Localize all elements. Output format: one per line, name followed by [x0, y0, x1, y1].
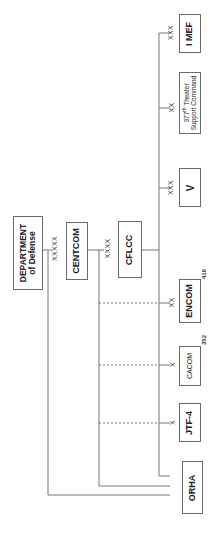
cacom-label: CACOM	[186, 353, 194, 379]
cflcc-echelon: XXXX	[104, 239, 111, 259]
tsc377-label-line1: 377th Theater	[182, 76, 190, 131]
encom-number: 416	[201, 269, 207, 279]
imef-echelon: XXX	[167, 25, 174, 40]
node-orha: ORHA	[182, 461, 203, 514]
encom-label: ENCOM	[185, 284, 195, 318]
centcom-echelon: XXXXX	[51, 236, 58, 261]
node-centcom: CENTCOM	[66, 222, 88, 280]
cacom-number: 352	[201, 335, 207, 345]
jtf4-echelon: X	[169, 420, 176, 425]
encom-echelon: XX	[168, 298, 175, 308]
centcom-label: CENTCOM	[72, 228, 82, 274]
node-jtf-4: JTF-4	[179, 403, 201, 442]
node-encom: ENCOM	[179, 279, 201, 323]
node-377th-theater-support-command: 377th Theater Support Command	[179, 72, 201, 134]
node-department-of-defense: DEPARTMENT of Defense	[13, 216, 43, 290]
v-echelon: XXX	[167, 180, 174, 195]
tsc377-label-line2: Support Command	[191, 76, 198, 131]
imef-label: I MEF	[185, 22, 195, 46]
cflcc-label: CFLCC	[125, 234, 135, 265]
jtf4-label: JTF-4	[185, 410, 195, 434]
dod-label-line2: of Defense	[28, 224, 37, 282]
v-label: V	[185, 184, 196, 191]
node-cacom: CACOM	[179, 346, 201, 386]
node-cflcc: CFLCC	[118, 221, 142, 278]
cacom-echelon: X	[169, 362, 176, 367]
orha-label: ORHA	[188, 474, 198, 501]
node-v-corps: V	[179, 168, 201, 207]
node-i-mef: I MEF	[179, 14, 201, 53]
tsc377-echelon: XX	[168, 103, 175, 113]
